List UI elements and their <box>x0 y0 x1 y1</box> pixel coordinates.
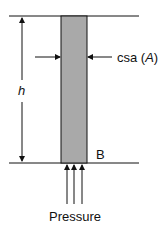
base-point-label: B <box>96 148 105 161</box>
csa-suffix: ) <box>154 50 158 65</box>
column-diagram <box>0 0 165 239</box>
pressure-label: Pressure <box>49 210 101 223</box>
csa-prefix: csa ( <box>117 50 145 65</box>
csa-variable: A <box>145 50 154 65</box>
csa-label: csa (A) <box>117 51 158 64</box>
height-label: h <box>18 84 25 97</box>
fluid-column <box>61 16 87 163</box>
